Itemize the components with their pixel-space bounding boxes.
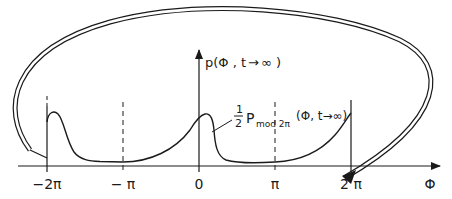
tick-label-minus-pi: − π: [111, 176, 136, 192]
y-axis-label: p(Φ , t→∞ ): [205, 55, 281, 70]
tick-label-minus-2pi: −2π: [32, 176, 62, 192]
fraction-denominator: 2: [235, 117, 242, 130]
curve-label-args: (Φ, t→∞): [296, 109, 347, 123]
distribution-curve-left-peak: [47, 112, 123, 162]
tick-label-2pi: 2 π: [340, 176, 362, 192]
x-axis-label: Φ: [424, 176, 435, 192]
fraction-numerator: 1: [236, 103, 243, 116]
tick-label-zero: 0: [195, 176, 204, 192]
tick-label-pi: π: [271, 176, 280, 192]
curve-label-main: P: [246, 110, 254, 126]
curve-label-subscript: mod 2π: [256, 119, 291, 129]
diagram-canvas: p(Φ , t→∞ ) 1 2 P mod 2π (Φ, t→∞) −2π − …: [0, 0, 452, 199]
curve-label-leader: [212, 120, 232, 132]
curve-label: 1 2 P mod 2π (Φ, t→∞): [234, 103, 347, 130]
